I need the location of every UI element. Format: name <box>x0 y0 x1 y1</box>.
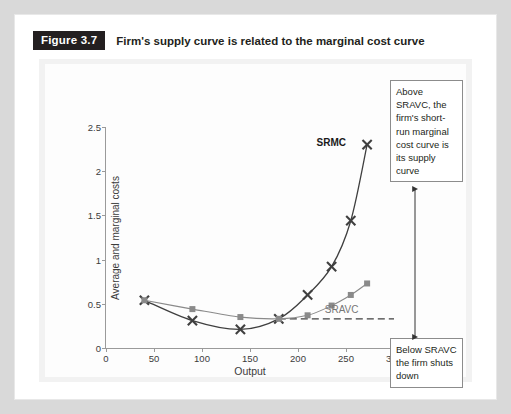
figure-title: Firm's supply curve is related to the ma… <box>116 35 424 47</box>
chart-axes: 0 0.5 1 1.5 2 2.5 0 50 100 150 200 250 <box>105 127 394 349</box>
figure-caption: Figure 3.7 Firm's supply curve is relate… <box>33 31 425 50</box>
figure-number-tag: Figure 3.7 <box>33 31 105 50</box>
sravc-curve-label: SRAVC <box>325 304 359 315</box>
range-arrow-icon <box>383 183 473 343</box>
annotation-below-sravc: Below SRAVC the firm shuts down <box>390 338 463 388</box>
figure-card: Figure 3.7 Firm's supply curve is relate… <box>15 15 496 399</box>
annotation-above-sravc: Above SRAVC, the firm's short-run margin… <box>390 80 463 182</box>
srmc-curve-label: SRMC <box>317 137 346 148</box>
